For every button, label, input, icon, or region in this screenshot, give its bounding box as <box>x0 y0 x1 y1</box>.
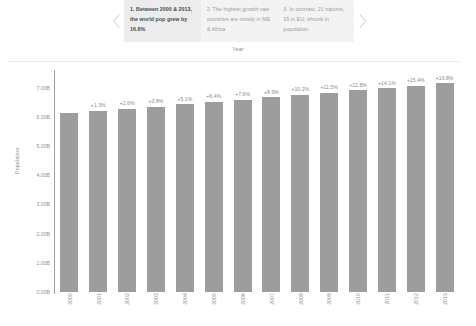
header-divider <box>8 61 460 62</box>
bar-value-label: +15.4% <box>407 77 425 83</box>
bar-slot: +16.8%2013 <box>430 70 459 292</box>
bar-slot: +12.8%2010 <box>344 70 373 292</box>
bar[interactable] <box>147 107 165 292</box>
bar-slot: +14.1%2011 <box>372 70 401 292</box>
x-axis-tick-label: 2005 <box>211 293 217 305</box>
bar[interactable] <box>89 111 107 292</box>
chart-panel: Year Population 0.00B1.00B2.00B3.00B4.00… <box>0 42 476 326</box>
bar[interactable] <box>234 100 252 292</box>
bar-value-label: +10.2% <box>291 86 309 92</box>
bar[interactable] <box>320 93 338 293</box>
y-axis-tick-label: 3.00B <box>36 201 50 207</box>
bar-slot: +7.6%2006 <box>228 70 257 292</box>
bar[interactable] <box>407 86 425 292</box>
bar[interactable] <box>205 102 223 292</box>
insight-card-2-text: 2. The highest growth rate countries are… <box>207 6 271 32</box>
bar-value-label: +2.6% <box>120 100 135 106</box>
carousel-next-button[interactable] <box>354 0 370 42</box>
bar-slot: +5.1%2004 <box>170 70 199 292</box>
y-axis-tick-label: 0.00B <box>36 289 50 295</box>
bar-slot: +11.5%2009 <box>315 70 344 292</box>
x-axis-tick-label: 2009 <box>326 293 332 305</box>
chevron-left-icon <box>112 13 121 29</box>
y-axis-tick-label: 5.00B <box>36 143 50 149</box>
x-axis-tick-label: 2000 <box>66 293 72 305</box>
bar-slot: +3.8%2003 <box>142 70 171 292</box>
bar-slot: +15.4%2012 <box>401 70 430 292</box>
bar[interactable] <box>118 109 136 292</box>
x-axis-tick-label: 2006 <box>240 293 246 305</box>
bar-slot: 2000 <box>55 70 84 292</box>
bar[interactable] <box>60 113 78 292</box>
insight-carousel: 1. Between 2000 & 2013, the world pop gr… <box>108 0 370 42</box>
bar-value-label: +11.5% <box>320 84 337 90</box>
y-axis-tick-label: 7.00B <box>36 85 50 91</box>
x-axis-tick-label: 2008 <box>297 293 303 305</box>
chevron-right-icon <box>358 13 367 29</box>
bar-slot: +8.9%2007 <box>257 70 286 292</box>
insight-card-2[interactable]: 2. The highest growth rate countries are… <box>201 0 278 42</box>
bar-slot: +10.2%2008 <box>286 70 315 292</box>
bar[interactable] <box>291 95 309 292</box>
bar-value-label: +14.1% <box>378 80 396 86</box>
bar[interactable] <box>176 104 194 292</box>
bar-value-label: +12.8% <box>349 82 367 88</box>
x-axis-tick-label: 2007 <box>268 293 274 305</box>
y-axis-title: Population <box>14 147 20 174</box>
bar-slot: +6.4%2005 <box>199 70 228 292</box>
insight-card-3-text: 3. In contrast, 21 nations, 15 in EU, sh… <box>283 6 344 32</box>
x-axis-title: Year <box>0 46 476 52</box>
x-axis-tick-label: 2010 <box>355 293 361 305</box>
bar-value-label: +8.9% <box>264 89 279 95</box>
bar[interactable] <box>436 83 454 292</box>
insight-card-1[interactable]: 1. Between 2000 & 2013, the world pop gr… <box>124 0 201 42</box>
x-axis-tick-label: 2011 <box>384 293 390 304</box>
y-axis-tick-label: 4.00B <box>36 172 50 178</box>
insight-card-1-text: 1. Between 2000 & 2013, the world pop gr… <box>130 6 192 32</box>
insight-card-3[interactable]: 3. In contrast, 21 nations, 15 in EU, sh… <box>277 0 354 42</box>
x-axis-tick-label: 2003 <box>153 293 159 305</box>
x-axis-tick-label: 2012 <box>413 293 419 305</box>
y-axis-tick-label: 6.00B <box>36 114 50 120</box>
bar-value-label: +1.3% <box>91 102 106 108</box>
carousel-prev-button[interactable] <box>108 0 124 42</box>
bar[interactable] <box>262 97 280 292</box>
bar-slot: +2.6%2002 <box>113 70 142 292</box>
y-axis-tick-label: 1.00B <box>36 260 50 266</box>
bar[interactable] <box>378 88 396 292</box>
x-axis-tick-label: 2013 <box>442 293 448 305</box>
bar-slot: +1.3%2001 <box>84 70 113 292</box>
chart-header: Year <box>0 42 476 62</box>
x-axis-tick-label: 2004 <box>182 293 188 305</box>
x-axis-tick-label: 2002 <box>124 293 130 305</box>
x-axis-tick-label: 2001 <box>95 293 101 305</box>
insight-card-list: 1. Between 2000 & 2013, the world pop gr… <box>124 0 354 42</box>
bar-series: 2000+1.3%2001+2.6%2002+3.8%2003+5.1%2004… <box>55 70 459 292</box>
bar-value-label: +6.4% <box>206 93 221 99</box>
bar-value-label: +7.6% <box>235 91 250 97</box>
plot-area: 0.00B1.00B2.00B3.00B4.00B5.00B6.00B7.00B… <box>55 70 459 292</box>
app-root: 1. Between 2000 & 2013, the world pop gr… <box>0 0 476 326</box>
y-axis-tick-label: 2.00B <box>36 231 50 237</box>
bar-value-label: +3.8% <box>149 98 164 104</box>
bar[interactable] <box>349 90 367 292</box>
bar-value-label: +16.8% <box>436 75 454 81</box>
bar-value-label: +5.1% <box>177 96 192 102</box>
